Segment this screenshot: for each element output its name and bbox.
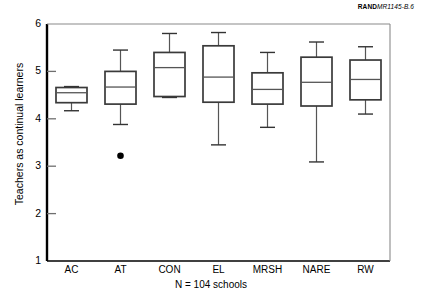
box-plot-rw	[350, 47, 381, 114]
y-tick-label: 3	[25, 160, 41, 171]
x-tick-label-rw: RW	[326, 264, 406, 275]
box-iqr	[154, 52, 185, 96]
plot-canvas	[0, 0, 422, 294]
y-tick-label: 2	[25, 208, 41, 219]
y-tick-label: 5	[25, 65, 41, 76]
box-plot-series	[56, 33, 381, 162]
y-tick-label: 4	[25, 113, 41, 124]
box-iqr	[56, 88, 87, 103]
box-plot-con	[154, 33, 185, 97]
box-iqr	[301, 57, 332, 106]
box-iqr	[252, 73, 283, 104]
box-iqr	[105, 71, 136, 104]
box-iqr	[203, 46, 234, 102]
outlier-point	[117, 152, 124, 159]
box-plot-nare	[301, 42, 332, 162]
y-tick-label: 6	[25, 18, 41, 29]
box-plot-mrsh	[252, 52, 283, 127]
chart-caption: N = 104 schools	[0, 279, 422, 290]
box-plot-ac	[56, 87, 87, 111]
box-plot-at	[105, 50, 136, 159]
box-plot-el	[203, 33, 234, 145]
y-axis-ticks	[47, 71, 56, 213]
boxplot-figure: RANDMR1145-B.6 Teachers as continual lea…	[0, 0, 422, 294]
